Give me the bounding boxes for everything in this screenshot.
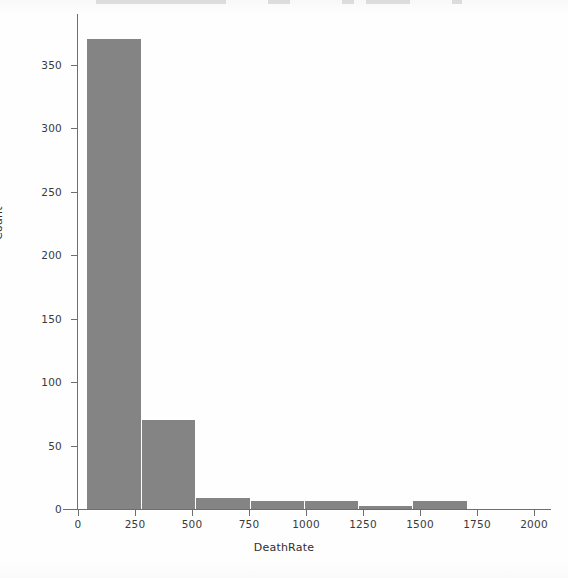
- x-ticklabel-250: 250: [105, 519, 165, 530]
- x-ticklabel-500: 500: [162, 519, 222, 530]
- histogram-bar: [412, 501, 466, 509]
- x-tick-250: [135, 510, 136, 516]
- y-tick-50: [71, 446, 77, 447]
- y-axis-title: Count: [0, 206, 5, 240]
- x-ticklabel-0: 0: [48, 519, 108, 530]
- page-edge-artifact: [366, 0, 410, 4]
- x-ticklabel-750: 750: [219, 519, 279, 530]
- y-ticklabel-50: 50: [10, 441, 62, 452]
- page-edge-artifact: [452, 0, 462, 4]
- y-tick-350: [71, 65, 77, 66]
- y-ticklabel-300: 300: [10, 123, 62, 134]
- x-ticklabel-1000: 1000: [276, 519, 336, 530]
- histogram-figure: 0 50 100 150 200 250 300 350 Count 0 250…: [0, 0, 568, 578]
- histogram-bar: [250, 501, 304, 509]
- y-tick-250: [71, 192, 77, 193]
- x-tick-1000: [306, 510, 307, 516]
- histogram-bar: [195, 498, 249, 509]
- y-ticklabel-250: 250: [10, 187, 62, 198]
- histogram-bars: [78, 14, 534, 509]
- page-edge-artifact: [342, 0, 354, 4]
- page-edge-artifact: [268, 0, 290, 4]
- x-tick-500: [192, 510, 193, 516]
- y-ticklabel-0: 0: [10, 504, 62, 515]
- histogram-bar: [87, 39, 141, 509]
- y-tick-100: [71, 382, 77, 383]
- y-ticklabel-150: 150: [10, 314, 62, 325]
- x-axis-title: DeathRate: [0, 541, 568, 554]
- x-tick-1250: [363, 510, 364, 516]
- histogram-bar: [141, 420, 195, 509]
- page-edge-artifact: [96, 0, 226, 4]
- x-ticklabel-2000: 2000: [504, 519, 564, 530]
- x-ticklabel-1500: 1500: [390, 519, 450, 530]
- y-tick-150: [71, 319, 77, 320]
- x-tick-1500: [420, 510, 421, 516]
- y-ticklabel-200: 200: [10, 250, 62, 261]
- x-tick-2000: [534, 510, 535, 516]
- y-tick-200: [71, 255, 77, 256]
- x-ticklabel-1750: 1750: [447, 519, 507, 530]
- y-ticklabel-350: 350: [10, 60, 62, 71]
- y-ticklabel-100: 100: [10, 377, 62, 388]
- x-tick-1750: [477, 510, 478, 516]
- x-tick-0: [78, 510, 79, 516]
- x-tick-750: [249, 510, 250, 516]
- histogram-bar: [304, 501, 358, 509]
- y-tick-300: [71, 128, 77, 129]
- x-ticklabel-1250: 1250: [333, 519, 393, 530]
- histogram-bar: [358, 506, 412, 509]
